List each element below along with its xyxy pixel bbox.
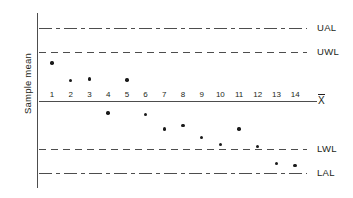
data-point <box>50 61 53 64</box>
centerline-xbar-symbol: X <box>318 94 325 106</box>
limit-label-ual: UAL <box>317 22 336 33</box>
y-axis-line <box>37 13 38 188</box>
data-point <box>181 124 184 127</box>
x-tick-label: 14 <box>287 90 303 99</box>
x-tick-label: 11 <box>231 90 247 99</box>
limit-line-uwl <box>39 52 307 53</box>
data-point <box>200 136 203 139</box>
limit-label-uwl: UWL <box>317 46 339 57</box>
x-tick-label: 13 <box>268 90 284 99</box>
center-line <box>39 101 317 102</box>
x-tick-label: 12 <box>250 90 266 99</box>
x-tick-label: 10 <box>212 90 228 99</box>
control-chart: Sample mean UALUWLLWLLAL 123456789101112… <box>0 0 353 198</box>
data-point <box>293 164 296 167</box>
x-tick-label: 2 <box>63 90 79 99</box>
x-tick-label: 1 <box>44 90 60 99</box>
y-axis-title: Sample mean <box>22 24 33 144</box>
data-point <box>144 113 147 116</box>
data-point <box>106 111 109 114</box>
limit-line-lwl <box>39 149 307 150</box>
data-point <box>275 162 278 165</box>
x-tick-label: 7 <box>156 90 172 99</box>
x-tick-label: 6 <box>138 90 154 99</box>
x-tick-label: 9 <box>194 90 210 99</box>
data-point <box>219 143 222 146</box>
x-tick-label: 8 <box>175 90 191 99</box>
data-point <box>125 78 128 81</box>
xbar-letter: X <box>318 96 325 106</box>
limit-label-lwl: LWL <box>317 143 337 154</box>
data-point <box>237 127 240 130</box>
limit-line-ual <box>39 28 307 29</box>
x-tick-label: 3 <box>81 90 97 99</box>
data-point <box>69 79 72 82</box>
data-point <box>256 145 259 148</box>
limit-line-lal <box>39 173 307 174</box>
limit-label-lal: LAL <box>317 167 335 178</box>
x-tick-label: 5 <box>119 90 135 99</box>
data-point <box>163 127 166 130</box>
x-tick-label: 4 <box>100 90 116 99</box>
data-point <box>88 77 91 80</box>
